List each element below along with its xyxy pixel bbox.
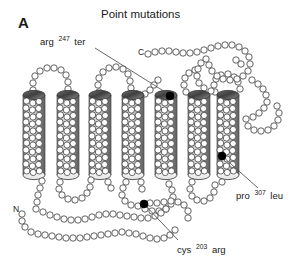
mutation-marker-arg247ter bbox=[166, 92, 174, 100]
c-terminus-label: C bbox=[138, 47, 144, 57]
cys203arg-residue-to: arg bbox=[212, 244, 226, 255]
helix-1 bbox=[23, 90, 45, 179]
panel-letter: A bbox=[18, 14, 29, 31]
helix-2 bbox=[57, 90, 79, 179]
arg247ter-position: 247 bbox=[58, 35, 70, 42]
helix-3 bbox=[89, 90, 111, 179]
cys203arg-position: 203 bbox=[196, 243, 208, 250]
pro307leu-residue-from: pro bbox=[236, 190, 250, 201]
mutation-marker-pro307leu bbox=[218, 152, 226, 160]
helix-4 bbox=[122, 90, 144, 179]
figure-panel-a: A Point mutations arg 247 ter pro 307 le… bbox=[0, 0, 297, 271]
membrane-protein-diagram: A Point mutations arg 247 ter pro 307 le… bbox=[0, 0, 297, 271]
n-terminus-label: N bbox=[13, 204, 19, 214]
helix-6 bbox=[188, 90, 210, 179]
helix-5 bbox=[155, 90, 177, 179]
arg247ter-residue-to: ter bbox=[74, 36, 85, 47]
helix-7 bbox=[217, 90, 239, 179]
cys203arg-residue-from: cys bbox=[177, 244, 192, 255]
mutation-marker-cys203arg bbox=[140, 200, 148, 208]
pro307leu-position: 307 bbox=[254, 189, 266, 196]
arg247ter-residue-from: arg bbox=[40, 36, 54, 47]
pro307leu-residue-to: leu bbox=[270, 190, 283, 201]
figure-title: Point mutations bbox=[101, 8, 181, 20]
